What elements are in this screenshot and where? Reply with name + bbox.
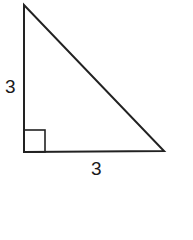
vertical-leg-label: 3: [5, 77, 16, 96]
right-angle-marker: [24, 130, 45, 152]
horizontal-leg-label: 3: [91, 159, 102, 178]
